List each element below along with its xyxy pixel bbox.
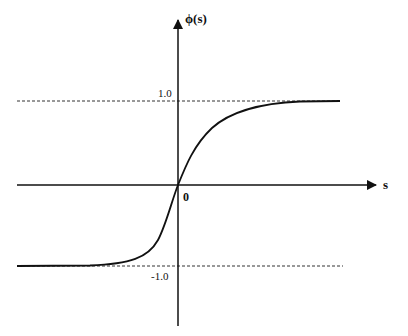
origin-label: 0	[183, 191, 189, 203]
sigmoid-diagram	[0, 0, 408, 336]
lower-asymptote-label: -1.0	[151, 271, 168, 282]
x-axis-label: s	[383, 178, 388, 191]
upper-asymptote-label: 1.0	[158, 88, 172, 99]
y-axis-label: ϕ(s)	[185, 12, 207, 25]
